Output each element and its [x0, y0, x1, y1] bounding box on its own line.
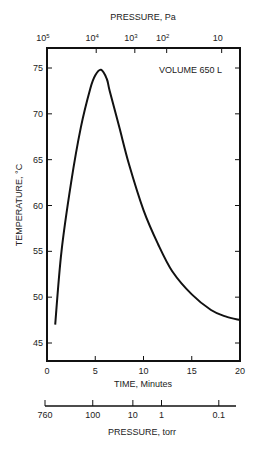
y-tick-label: 50 — [33, 292, 43, 302]
top-axis-title: PRESSURE, Pa — [110, 12, 176, 22]
y-tick-label: 60 — [33, 201, 43, 211]
top-tick-label: 104 — [86, 33, 100, 43]
x-tick-label: 10 — [138, 366, 148, 376]
torr-tick-label: 0.1 — [213, 410, 226, 420]
x-axis-ticks: 05101520 — [44, 356, 245, 376]
top-tick-label: 102 — [156, 33, 170, 43]
y-tick-label: 75 — [33, 63, 43, 73]
top-tick-label: 103 — [124, 33, 138, 43]
x-tick-label: 5 — [93, 366, 98, 376]
x-axis-title: TIME, Minutes — [114, 379, 173, 389]
torr-tick-label: 1 — [159, 410, 164, 420]
y-tick-label: 55 — [33, 246, 43, 256]
y-tick-label: 65 — [33, 155, 43, 165]
y-axis-ticks: 45505560657075 — [33, 63, 240, 348]
torr-tick-label: 10 — [128, 410, 138, 420]
x-tick-label: 15 — [187, 366, 197, 376]
volume-annotation: VOLUME 650 L — [159, 65, 222, 75]
x-tick-label: 20 — [235, 366, 245, 376]
y-tick-label: 45 — [33, 338, 43, 348]
torr-tick-label: 760 — [37, 410, 52, 420]
top-tick-label: 105 — [36, 33, 50, 43]
plot-frame — [47, 48, 240, 361]
x-tick-label: 0 — [44, 366, 49, 376]
y-axis-title: TEMPERATURE, °C — [14, 163, 24, 246]
torr-tick-label: 100 — [85, 410, 100, 420]
torr-axis-title: PRESSURE, torr — [108, 427, 176, 437]
top-tick-label: 10 — [213, 33, 223, 43]
temperature-pressure-chart: PRESSURE, Pa 10510410310210 455055606570… — [0, 0, 258, 449]
top-axis-ticks: 10510410310210 — [36, 33, 222, 53]
temperature-curve — [55, 70, 240, 325]
torr-axis-ticks: 7601001010.1 — [37, 400, 225, 420]
y-tick-label: 70 — [33, 109, 43, 119]
